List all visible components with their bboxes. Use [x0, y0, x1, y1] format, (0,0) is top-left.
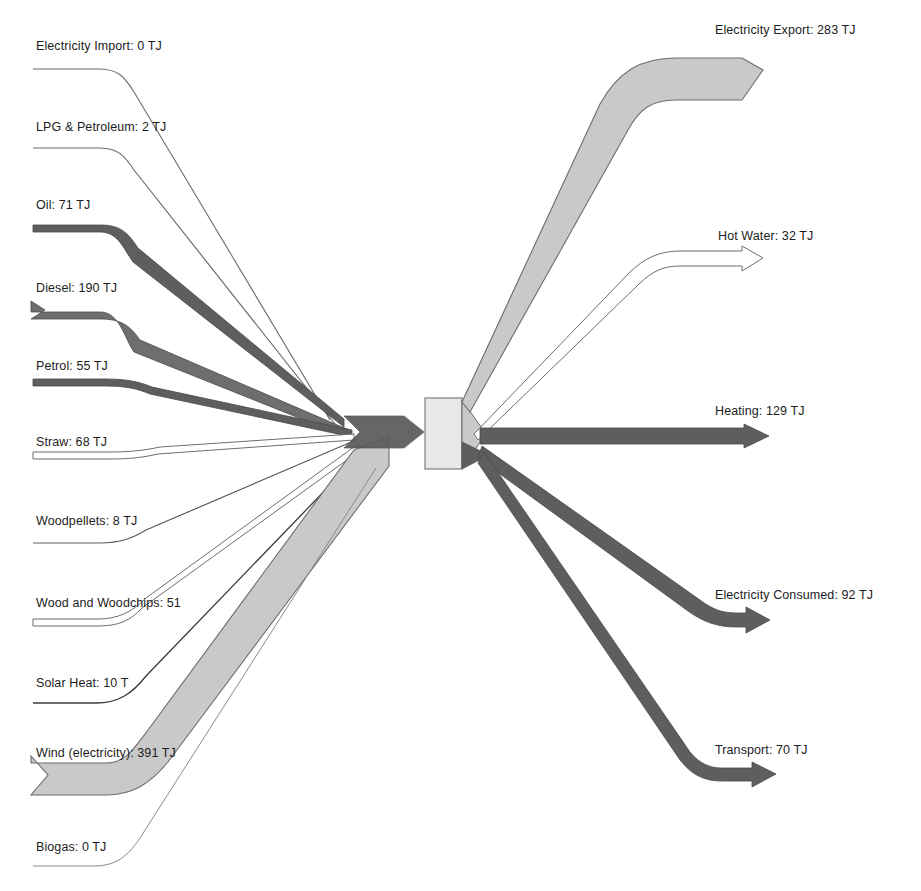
label-solar-heat: Solar Heat: 10 T: [36, 676, 129, 690]
label-straw: Straw: 68 TJ: [36, 435, 107, 449]
label-heating: Heating: 129 TJ: [715, 404, 805, 418]
label-petrol: Petrol: 55 TJ: [36, 359, 108, 373]
label-hot-water: Hot Water: 32 TJ: [718, 229, 813, 243]
flow-heating[interactable]: [480, 424, 769, 448]
label-lpg-petroleum: LPG & Petroleum: 2 TJ: [36, 120, 166, 134]
label-woodpellets: Woodpellets: 8 TJ: [36, 514, 137, 528]
label-electricity-consumed: Electricity Consumed: 92 TJ: [715, 588, 873, 602]
sankey-canvas: Electricity Import: 0 TJ LPG & Petroleum…: [0, 0, 921, 891]
flow-electricity-consumed[interactable]: [478, 446, 770, 633]
sankey-diagram: Electricity Import: 0 TJ LPG & Petroleum…: [0, 0, 921, 891]
label-wood-woodchips: Wood and Woodchips: 51: [36, 596, 181, 610]
flow-wind-electricity[interactable]: [31, 436, 389, 795]
label-transport: Transport: 70 TJ: [715, 743, 808, 757]
label-electricity-export: Electricity Export: 283 TJ: [715, 23, 856, 37]
label-diesel: Diesel: 190 TJ: [36, 281, 117, 295]
label-wind-electricity: Wind (electricity): 391 TJ: [36, 746, 176, 760]
label-biogas: Biogas: 0 TJ: [36, 840, 106, 854]
label-oil: Oil: 71 TJ: [36, 198, 90, 212]
hub-node[interactable]: [425, 398, 462, 469]
input-convergence-chevron: [344, 416, 424, 448]
label-electricity-import: Electricity Import: 0 TJ: [36, 39, 162, 53]
